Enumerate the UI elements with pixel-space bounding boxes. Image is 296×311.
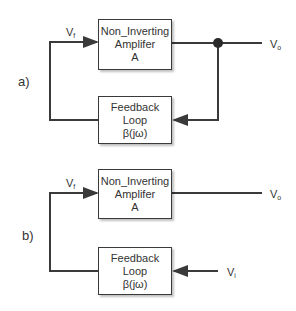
vo-sub: o (277, 44, 281, 51)
vf-label-a: Vf (66, 26, 75, 39)
vo-label-b: Vo (270, 188, 281, 201)
amp-line1: Non_Inverting (101, 25, 170, 38)
vi-sub: i (234, 272, 236, 279)
junction-dot (213, 38, 223, 48)
amp-line2: Amplifer (115, 38, 155, 51)
amp-line3: A (131, 51, 138, 64)
fb-line1: Feedback (111, 252, 159, 265)
amp-line2: Amplifer (115, 188, 155, 201)
vf-sub: f (73, 32, 75, 39)
vf-label-b: Vf (66, 177, 75, 190)
fb-line1: Feedback (111, 101, 159, 114)
fb-line2: Loop (123, 265, 147, 278)
panel-a-label: a) (18, 74, 30, 89)
vo-sub: o (277, 194, 281, 201)
amp-line3: A (131, 201, 138, 214)
amplifier-block-a: Non_Inverting Amplifer A (98, 19, 172, 70)
vo-label-a: Vo (270, 38, 281, 51)
fb-line3: β(jω) (123, 278, 148, 291)
feedback-block-b: Feedback Loop β(jω) (98, 247, 172, 295)
feedback-block-a: Feedback Loop β(jω) (98, 96, 172, 144)
amp-line1: Non_Inverting (101, 175, 170, 188)
vf-sub: f (73, 183, 75, 190)
fb-line3: β(jω) (123, 127, 148, 140)
fb-line2: Loop (123, 114, 147, 127)
panel-b-label: b) (22, 228, 34, 243)
vi-label-b: Vi (227, 266, 236, 279)
amplifier-block-b: Non_Inverting Amplifer A (98, 169, 172, 219)
